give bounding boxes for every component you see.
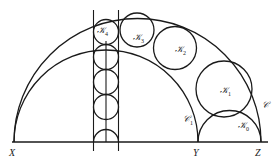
label-k0: 𝒦0 bbox=[238, 120, 249, 132]
label-k2: 𝒦2 bbox=[175, 44, 186, 56]
label-c: 𝒞 bbox=[262, 100, 271, 110]
point-y-label: Y bbox=[193, 147, 200, 158]
label-k3: 𝒦3 bbox=[133, 32, 144, 44]
pappus-chain-diagram: 𝒦4 𝒦3 𝒦2 𝒦1 𝒦0 𝒞1 𝒞 X Y Z bbox=[0, 0, 276, 164]
label-k4: 𝒦4 bbox=[97, 25, 108, 37]
label-c1: 𝒞1 bbox=[183, 114, 193, 126]
label-k1: 𝒦1 bbox=[220, 85, 231, 97]
point-x-label: X bbox=[8, 147, 16, 158]
semicircle-k0 bbox=[198, 111, 261, 142]
point-z-label: Z bbox=[255, 147, 261, 158]
